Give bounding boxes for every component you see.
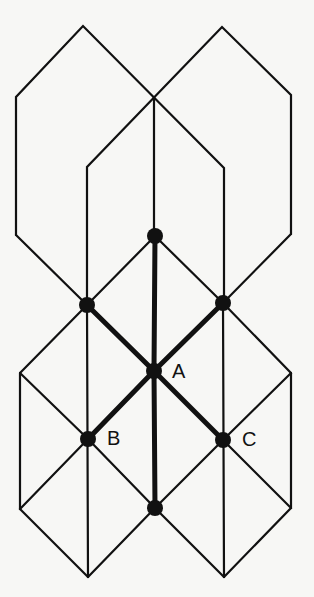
right-edge-to-C (223, 373, 291, 440)
node-left-mid (79, 297, 95, 313)
node-A (146, 363, 162, 379)
right-outer-top-edge (87, 27, 291, 305)
node-top (147, 228, 163, 244)
right-mid-to-right-edge (223, 303, 291, 373)
bottom-to-bottom-right (155, 508, 224, 577)
top-to-right-mid (155, 236, 223, 303)
left-outer-top-edge (16, 26, 224, 303)
node-C (215, 432, 231, 448)
left-edge-to-B (20, 373, 88, 439)
left-lower-to-bottom-left (20, 509, 88, 577)
node-right-mid (215, 295, 231, 311)
edge-A-left-mid (87, 305, 154, 371)
edge-A-top (154, 236, 155, 371)
label-A: A (172, 360, 186, 382)
C-to-right-lower (223, 440, 291, 508)
label-C: C (242, 428, 256, 450)
edge-A-right-mid (154, 303, 223, 371)
bottom-to-bottom-left (88, 508, 155, 577)
edge-A-B (88, 371, 154, 439)
C-to-bottom (155, 440, 223, 508)
edge-A-C (154, 371, 223, 440)
node-bottom (147, 500, 163, 516)
left-shoulder-to-right-mid (16, 235, 87, 305)
edge-A-bottom (154, 371, 155, 508)
B-to-bottom (88, 439, 155, 508)
right-shoulder-to-right-mid (223, 234, 291, 303)
labels: A B C (107, 360, 256, 450)
B-to-left-lower (20, 439, 88, 509)
right-lower-to-bottom-right (224, 508, 291, 577)
label-B: B (107, 427, 120, 449)
top-to-left-mid (87, 236, 155, 305)
left-mid-to-left-edge (20, 305, 87, 373)
lattice-diagram: A B C (0, 0, 314, 597)
node-B (80, 431, 96, 447)
